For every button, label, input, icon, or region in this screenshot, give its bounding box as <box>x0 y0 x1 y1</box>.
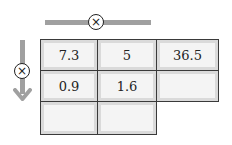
cell-r2-c1: 0.9 <box>40 70 98 102</box>
multiply-circle-icon: × <box>14 63 30 79</box>
cell-r2-c2: 1.6 <box>97 70 157 102</box>
multiply-circle-icon: × <box>88 14 104 30</box>
multiply-symbol: × <box>91 16 101 28</box>
multiply-symbol: × <box>17 65 27 77</box>
cell-r2-c3 <box>156 70 219 102</box>
cell-r1-c2: 5 <box>97 39 157 71</box>
cell-r3-c2 <box>97 101 157 135</box>
cell-r1-c1: 7.3 <box>40 39 98 71</box>
cell-r1-c3: 36.5 <box>156 39 219 71</box>
cell-r3-c1 <box>40 101 98 135</box>
arrow-down-icon <box>13 88 32 102</box>
